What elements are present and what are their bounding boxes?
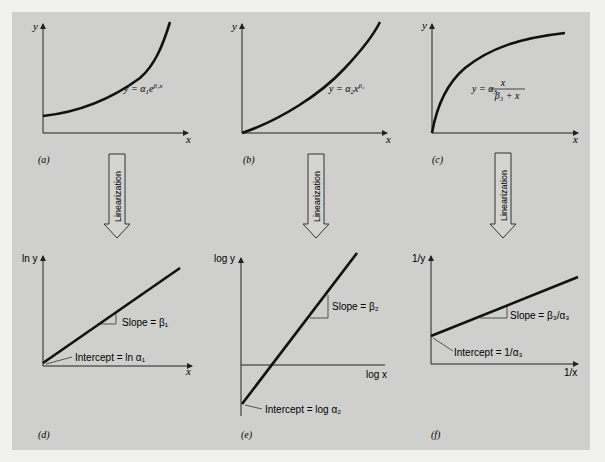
linearization-figure: y x y = α1eβ₁x (a) y x y = α2xβ₂ (b) y x… [0, 0, 605, 462]
y-axis-label: ln y [22, 253, 38, 264]
equation: y = α1eβ₁x [123, 82, 163, 96]
equation: y = α2xβ₂ [328, 82, 365, 96]
panel-label: (e) [241, 429, 253, 441]
panel-label: (a) [38, 154, 50, 166]
slope-triangle [480, 307, 507, 318]
linearization-arrow-c: Linearization [490, 153, 516, 238]
slope-triangle [310, 295, 328, 318]
intercept-label: Intercept = ln α₁ [75, 352, 146, 363]
x-axis-label: x [385, 133, 391, 145]
power-curve [242, 22, 380, 133]
arrow-label: Linearization [312, 171, 322, 222]
linearization-arrow-a: Linearization [104, 154, 130, 238]
intercept-label: Intercept = log α₂ [265, 404, 341, 415]
equation: y = α3 [471, 83, 497, 96]
panel-label: (f) [431, 429, 441, 441]
slope-label: Slope = β₁ [122, 317, 169, 328]
intercept-leader [245, 405, 262, 409]
linear-fit-line [242, 253, 357, 404]
x-axis-label: x [185, 365, 191, 377]
panel-f: Slope = β₃/α₃ Intercept = 1/α₃ 1/y 1/x (… [412, 253, 578, 441]
exponential-curve [43, 22, 170, 116]
y-axis-label: y [231, 20, 237, 32]
intercept-label: Intercept = 1/α₃ [454, 347, 523, 358]
y-axis-label: 1/y [412, 253, 425, 264]
intercept-leader [433, 338, 453, 351]
panel-label: (b) [243, 154, 255, 166]
y-axis-label: log y [214, 253, 235, 264]
panel-label: (c) [432, 154, 444, 166]
x-axis-label: x [572, 133, 578, 145]
panel-b: y x y = α2xβ₂ (b) [231, 20, 391, 166]
panel-label: (d) [38, 429, 50, 441]
equation-numerator: x [500, 77, 506, 88]
panel-d: Slope = β₁ Intercept = ln α₁ ln y x (d) [22, 253, 192, 441]
x-axis-label: x [185, 133, 191, 145]
y-axis-label: y [32, 20, 38, 32]
linear-fit-line [431, 277, 578, 336]
x-axis-label: log x [366, 369, 387, 380]
panel-e: Slope = β₂ Intercept = log α₂ log y log … [214, 253, 387, 441]
linearization-arrow-b: Linearization [303, 154, 329, 238]
linear-fit-line [43, 268, 180, 363]
panel-c: y x y = α3 x β₃ + x (c) [421, 19, 578, 166]
arrow-label: Linearization [113, 171, 123, 222]
slope-label: Slope = β₃/α₃ [510, 310, 569, 321]
panel-a: y x y = α1eβ₁x (a) [32, 20, 191, 166]
arrow-label: Linearization [499, 170, 509, 221]
equation-denominator: β₃ + x [494, 90, 520, 101]
saturation-curve [432, 33, 565, 133]
slope-label: Slope = β₂ [332, 301, 379, 312]
y-axis-label: y [421, 19, 427, 31]
x-axis-label: 1/x [564, 367, 577, 378]
